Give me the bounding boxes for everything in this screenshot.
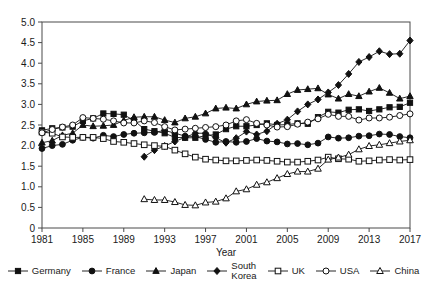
marker-open-square — [203, 156, 209, 162]
x-tick-label: 1981 — [31, 234, 54, 245]
marker-open-circle — [356, 117, 362, 123]
marker-open-square — [172, 147, 178, 153]
line-chart: 00.51.01.52.02.53.03.54.04.55.0198119851… — [0, 0, 426, 293]
legend-glyph-filled-triangle — [145, 265, 167, 277]
marker-open-triangle — [161, 196, 168, 202]
marker-open-square — [366, 158, 372, 164]
y-tick-label: 2.0 — [21, 140, 35, 151]
marker-filled-circle — [295, 141, 301, 147]
marker-filled-circle — [325, 134, 331, 140]
legend-item-japan[interactable]: Japan — [145, 265, 196, 277]
marker-open-circle — [323, 268, 329, 274]
marker-filled-circle — [315, 140, 321, 146]
marker-open-square — [244, 158, 250, 164]
marker-filled-square — [407, 100, 412, 105]
marker-open-triangle — [141, 196, 148, 202]
marker-open-circle — [243, 117, 249, 123]
marker-filled-diamond — [264, 128, 270, 135]
marker-filled-diamond — [376, 48, 382, 55]
marker-filled-diamond — [305, 101, 311, 108]
marker-open-circle — [397, 113, 403, 119]
marker-open-circle — [70, 122, 76, 128]
marker-open-triangle — [377, 268, 384, 274]
legend-glyph-open-triangle — [369, 265, 391, 277]
marker-open-square — [193, 154, 199, 160]
legend-item-usa[interactable]: USA — [315, 265, 360, 277]
marker-open-square — [70, 135, 76, 141]
marker-open-circle — [131, 120, 137, 126]
marker-filled-circle — [376, 131, 382, 137]
marker-open-square — [141, 142, 147, 148]
legend-item-label: Japan — [170, 266, 196, 276]
marker-open-square — [152, 143, 158, 149]
marker-filled-triangle — [315, 85, 321, 91]
marker-filled-triangle — [151, 113, 157, 119]
y-tick-label: 4.5 — [21, 37, 35, 48]
marker-filled-triangle — [153, 268, 159, 274]
x-tick-label: 2005 — [276, 234, 299, 245]
marker-open-square — [397, 157, 403, 163]
marker-open-square — [274, 158, 280, 164]
legend-glyph-filled-circle — [81, 265, 103, 277]
marker-open-circle — [325, 111, 331, 117]
marker-filled-circle — [152, 130, 158, 136]
marker-open-circle — [366, 115, 372, 121]
y-tick-label: 0 — [29, 223, 35, 234]
marker-open-circle — [90, 115, 96, 121]
marker-filled-diamond — [315, 96, 321, 103]
marker-open-circle — [407, 111, 413, 117]
marker-open-triangle — [243, 186, 250, 192]
marker-open-circle — [151, 120, 157, 126]
marker-open-square — [131, 141, 137, 147]
marker-open-circle — [203, 124, 209, 130]
marker-filled-triangle — [49, 137, 55, 143]
chart-canvas: 00.51.01.52.02.53.03.54.04.55.0198119851… — [0, 0, 426, 293]
marker-open-circle — [100, 116, 106, 122]
legend-item-france[interactable]: France — [81, 265, 136, 277]
marker-filled-square — [101, 111, 106, 116]
marker-filled-square — [15, 268, 20, 273]
marker-open-circle — [346, 113, 352, 119]
marker-filled-triangle — [407, 93, 413, 99]
marker-filled-circle — [141, 130, 147, 136]
marker-open-square — [233, 158, 239, 164]
series-line — [42, 88, 410, 143]
marker-filled-diamond — [294, 108, 300, 115]
marker-filled-diamond — [366, 54, 372, 61]
marker-open-circle — [376, 115, 382, 121]
y-tick-label: 3.0 — [21, 99, 35, 110]
marker-filled-circle — [89, 268, 95, 274]
marker-open-square — [295, 159, 301, 165]
legend-item-uk[interactable]: UK — [267, 265, 305, 277]
marker-filled-circle — [366, 133, 372, 139]
marker-open-circle — [59, 124, 65, 130]
marker-filled-triangle — [376, 85, 382, 91]
legend-item-china[interactable]: China — [369, 265, 419, 277]
y-tick-label: 1.5 — [21, 161, 35, 172]
x-tick-label: 2013 — [358, 234, 381, 245]
legend-glyph-filled-diamond — [206, 265, 228, 277]
marker-open-square — [80, 135, 86, 141]
marker-open-circle — [141, 118, 147, 124]
marker-open-circle — [80, 115, 86, 121]
legend-item-germany[interactable]: Germany — [7, 265, 71, 277]
marker-filled-circle — [336, 135, 342, 141]
x-tick-label: 2017 — [399, 234, 422, 245]
y-tick-label: 0.5 — [21, 202, 35, 213]
marker-open-circle — [121, 120, 127, 126]
series-china — [141, 137, 413, 208]
marker-filled-circle — [60, 141, 66, 147]
y-tick-label: 3.5 — [21, 78, 35, 89]
marker-open-square — [60, 134, 66, 140]
marker-open-square — [264, 158, 270, 164]
marker-open-circle — [254, 120, 260, 126]
marker-open-square — [377, 157, 383, 163]
legend-item-label: South Korea — [231, 261, 256, 281]
marker-open-square — [162, 144, 168, 150]
marker-open-square — [387, 157, 393, 163]
legend-item-south-korea[interactable]: South Korea — [206, 261, 256, 281]
y-tick-label: 5.0 — [21, 17, 35, 28]
marker-filled-circle — [387, 132, 393, 138]
legend-item-label: UK — [292, 266, 305, 276]
marker-open-square — [90, 135, 96, 141]
